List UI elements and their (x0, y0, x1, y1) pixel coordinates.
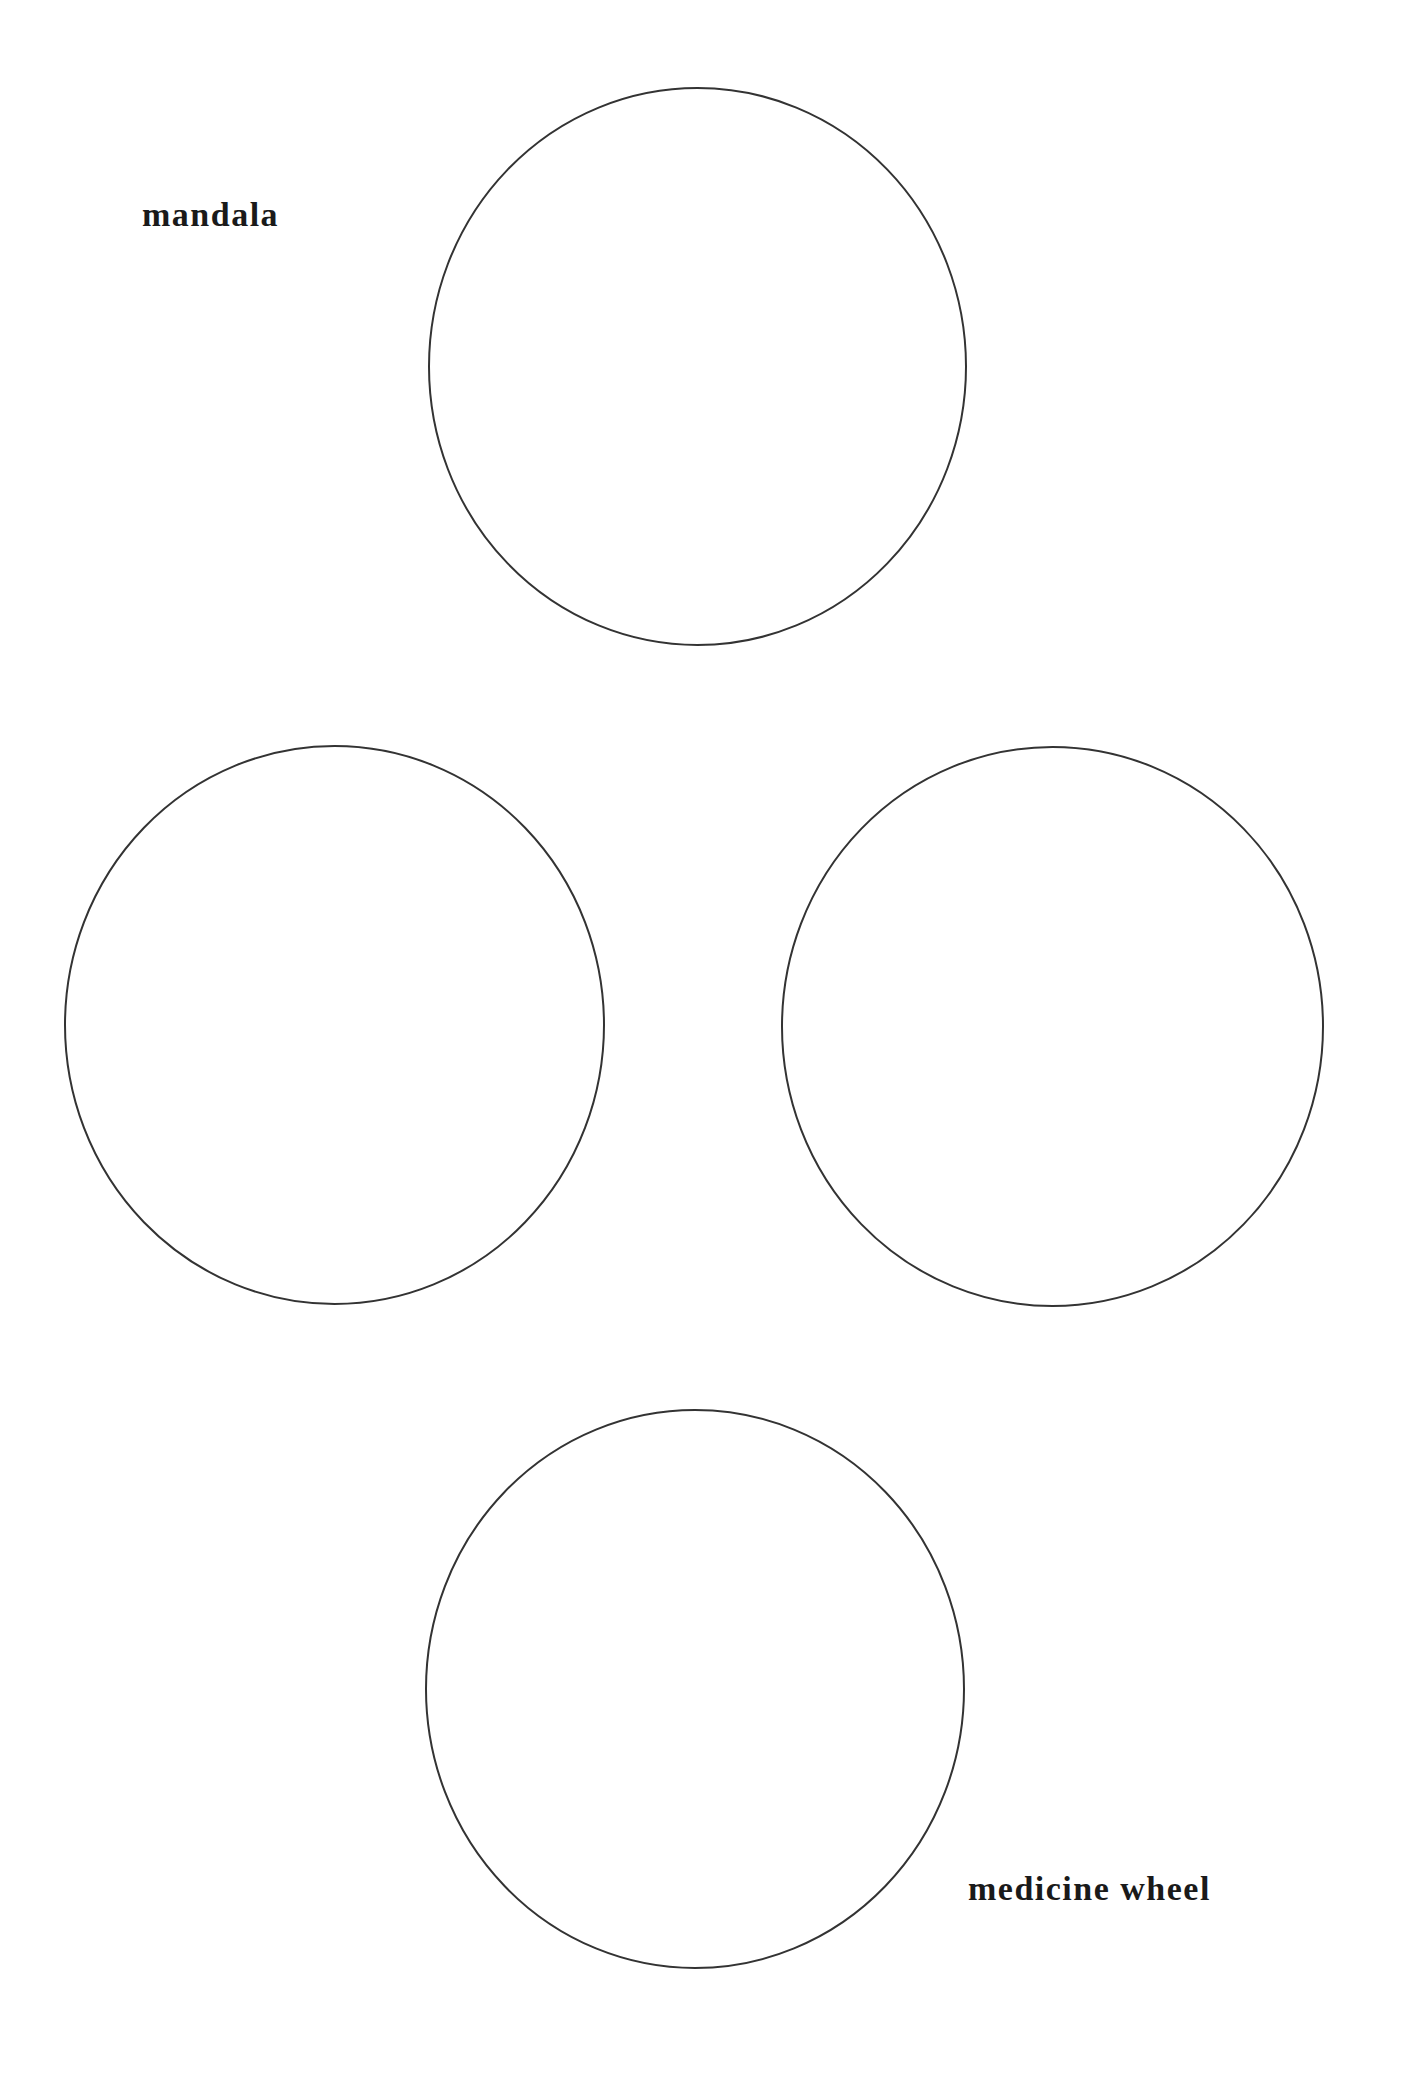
circle-right (782, 747, 1323, 1306)
circle-bottom (426, 1410, 964, 1968)
diagram-canvas: mandala medicine wheel (0, 0, 1409, 2081)
medicine-wheel-label: medicine wheel (968, 1872, 1211, 1906)
circle-top (429, 88, 966, 645)
circles-layer (0, 0, 1409, 2081)
circle-left (65, 746, 604, 1304)
